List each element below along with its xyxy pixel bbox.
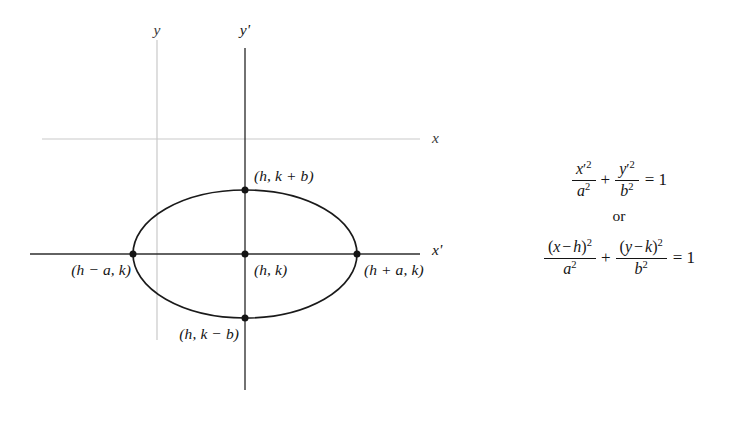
operator-minus: − (632, 238, 645, 255)
operator-plus: + (597, 248, 615, 268)
point-label-right-vertex: (h + a, k) (364, 262, 424, 278)
point-bottom-vertex (242, 315, 249, 322)
point-label-center: (h, k) (254, 262, 287, 278)
var-a: a (577, 182, 585, 199)
point-label-top-vertex: (h, k + b) (254, 168, 314, 184)
point-left-vertex (130, 251, 137, 258)
equation-standard-form: x′2 a2 + y′2 b2 = 1 (497, 160, 741, 201)
var-b: b (635, 260, 643, 277)
point-label-left-vertex: (h − a, k) (71, 262, 131, 278)
axis-label-y: y (154, 22, 161, 38)
exponent: 2 (629, 159, 634, 170)
denominator-a-squared: a2 (573, 181, 594, 201)
var-y: y (625, 238, 632, 255)
denominator-b-squared: b2 (616, 181, 637, 201)
exponent: 2 (657, 236, 662, 247)
exponent: 2 (571, 258, 576, 269)
exponent: 2 (643, 258, 648, 269)
figure-canvas: y x y' x' (h, k + b) (h − a, k) (h, k) (… (0, 0, 741, 426)
point-center (242, 251, 249, 258)
numerator-y-prime-squared: y′2 (615, 160, 639, 181)
axis-label-x-prime: x' (432, 242, 442, 258)
fraction-y-minus-k-squared-over-b-squared: (y−k)2 b2 (616, 238, 667, 279)
equation-translated-form: (x−h)2 a2 + (y−k)2 b2 = 1 (497, 238, 741, 279)
axis-label-x: x (432, 130, 439, 146)
operator-plus: + (597, 170, 615, 190)
operator-minus: − (560, 238, 573, 255)
equations-panel: x′2 a2 + y′2 b2 = 1 or (x−h)2 a2 + (y−k)… (497, 160, 741, 279)
numerator-y-minus-k-squared: (y−k)2 (616, 238, 667, 259)
exponent: 2 (587, 236, 592, 247)
exponent: 2 (586, 159, 591, 170)
axis-label-y-prime: y' (240, 22, 250, 38)
var-x: x (576, 160, 583, 177)
fraction-x-minus-h-squared-over-a-squared: (x−h)2 a2 (544, 238, 596, 279)
denominator-a-squared: a2 (559, 259, 580, 279)
fraction-x-prime-squared-over-a-squared: x′2 a2 (572, 160, 596, 201)
equals-one: = 1 (668, 248, 695, 268)
numerator-x-minus-h-squared: (x−h)2 (544, 238, 596, 259)
equals-one: = 1 (640, 170, 667, 190)
point-top-vertex (242, 187, 249, 194)
denominator-b-squared: b2 (631, 259, 652, 279)
exponent: 2 (585, 181, 590, 192)
exponent: 2 (628, 181, 633, 192)
fraction-y-prime-squared-over-b-squared: y′2 b2 (615, 160, 639, 201)
equation-connector-or: or (497, 207, 741, 225)
numerator-x-prime-squared: x′2 (572, 160, 596, 181)
point-label-bottom-vertex: (h, k − b) (179, 326, 239, 342)
point-right-vertex (354, 251, 361, 258)
